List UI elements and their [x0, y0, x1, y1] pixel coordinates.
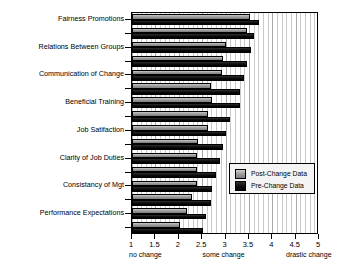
y-axis-category-label: Consistancy of Mgt [63, 180, 124, 190]
x-axis-tick [154, 234, 155, 239]
x-axis-tick [131, 234, 132, 239]
bar-pre-change [132, 75, 244, 81]
bar-pre-change [132, 186, 212, 192]
x-axis-tick-label: 5 [298, 240, 338, 249]
bar-pre-change [132, 33, 254, 39]
x-axis-tick [178, 234, 179, 239]
y-axis-category-label: Job Satifaction [77, 125, 124, 135]
bar-pre-change [132, 61, 247, 67]
chart-legend: Post-Change DataPre-Change Data [229, 163, 315, 194]
bar-pre-change [132, 158, 220, 164]
bars-layer [132, 13, 317, 233]
bar-pre-change [132, 47, 251, 53]
y-axis-category-label: Performance Expectations [40, 208, 124, 218]
bar-pre-change [132, 103, 240, 109]
x-axis-tick [271, 234, 272, 239]
x-axis-tick [295, 234, 296, 239]
plot-area [131, 12, 318, 234]
legend-swatch-pre [235, 181, 246, 191]
bar-pre-change [132, 172, 216, 178]
x-axis-anchor-label: no change [129, 251, 162, 258]
x-axis-anchor-label: drastic change [286, 251, 332, 258]
bar-pre-change [132, 20, 259, 26]
y-axis-category-label: Communication of Change [39, 69, 124, 79]
legend-item: Pre-Change Data [235, 180, 311, 191]
legend-item: Post-Change Data [235, 168, 311, 179]
y-axis-category-label: Beneficial Training [65, 97, 124, 107]
bar-pre-change [132, 200, 211, 206]
bar-pre-change [132, 214, 206, 220]
x-axis-tick [225, 234, 226, 239]
bar-pre-change [132, 89, 240, 95]
legend-swatch-post [235, 169, 246, 179]
x-axis-tick [248, 234, 249, 239]
y-axis-category-labels: Fairness PromotionsRelations Between Gro… [18, 12, 124, 234]
x-axis-anchor-labels: no changesome changedrastic change [101, 251, 348, 263]
x-axis-anchor-label: some change [203, 251, 245, 258]
legend-label: Pre-Change Data [251, 182, 304, 189]
x-axis-tick [201, 234, 202, 239]
y-axis-category-label: Fairness Promotions [58, 14, 124, 24]
y-axis-category-label: Clarity of Job Duties [60, 153, 124, 163]
bar-pre-change [132, 117, 230, 123]
y-axis-category-label: Relations Between Groups [39, 42, 125, 52]
bar-chart: Survey Catagory Fairness PromotionsRelat… [0, 0, 351, 271]
legend-label: Post-Change Data [251, 170, 307, 177]
bar-pre-change [132, 228, 203, 234]
bar-pre-change [132, 131, 226, 137]
bar-pre-change [132, 144, 223, 150]
x-axis-tick [318, 234, 319, 239]
